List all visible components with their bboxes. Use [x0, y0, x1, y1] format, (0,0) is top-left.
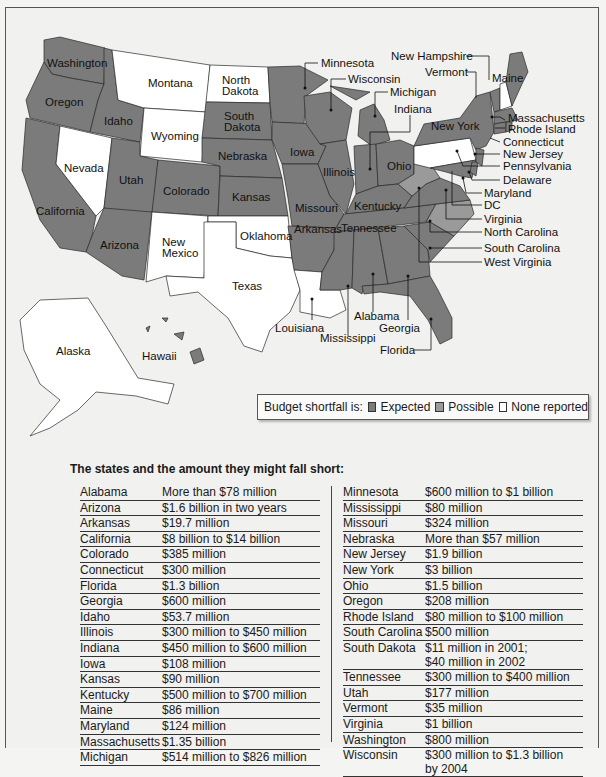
label-louisiana: Louisiana — [275, 322, 325, 334]
label-north-carolina: North Carolina — [484, 226, 559, 238]
amount-line: $600 million to $1 billion — [425, 486, 583, 500]
table-row: Mississippi$80 million — [343, 501, 583, 517]
shortfall-amount: $1.35 billion — [162, 736, 320, 750]
label-pennsylvania: Pennsylvania — [503, 160, 572, 172]
amount-line: $86 million — [162, 704, 320, 718]
label-texas: Texas — [232, 280, 262, 292]
table-title: The states and the amount they might fal… — [70, 462, 344, 476]
amount-line-2: by 2004 — [425, 763, 583, 777]
label-rhode-island: Rhode Island — [508, 123, 576, 135]
shortfall-amount: More than $78 million — [162, 486, 320, 500]
table-row: New Jersey$1.9 billion — [343, 547, 583, 563]
shortfall-amount: $86 million — [162, 704, 320, 718]
label-illinois: Illinois — [323, 166, 355, 178]
table-row: AlabamaMore than $78 million — [80, 485, 320, 501]
label-alabama: Alabama — [354, 310, 400, 322]
amount-line-2: $40 million in 2002 — [425, 656, 583, 670]
shortfall-amount: $600 million — [162, 595, 320, 609]
shortfall-amount: $1 billion — [425, 718, 583, 732]
table-row: Georgia$600 million — [80, 594, 320, 610]
label-new-hampshire: New Hampshire — [391, 50, 473, 62]
amount-line: $1 billion — [425, 718, 583, 732]
shortfall-table-right: Minnesota$600 million to $1 billionMissi… — [343, 485, 583, 777]
amount-line: $300 million to $450 million — [162, 626, 320, 640]
label-hawaii: Hawaii — [142, 350, 177, 362]
amount-line: $8 billion to $14 billion — [162, 533, 320, 547]
shortfall-amount: $300 million — [162, 564, 320, 578]
label-wisconsin: Wisconsin — [348, 73, 400, 85]
shortfall-table-left: AlabamaMore than $78 millionArizona$1.6 … — [80, 485, 320, 766]
label-missouri: Missouri — [295, 202, 338, 214]
amount-line: $800 million — [425, 734, 583, 748]
amount-line: $1.6 billion in two years — [162, 502, 320, 516]
table-row: Illinois$300 million to $450 million — [80, 625, 320, 641]
table-row: South Carolina$500 million — [343, 625, 583, 641]
label-washington: Washington — [47, 57, 107, 69]
table-row: Florida$1.3 billion — [80, 579, 320, 595]
table-row: Massachusetts$1.35 billion — [80, 735, 320, 751]
table-row: Kentucky$500 million to $700 million — [80, 688, 320, 704]
state-indiana — [354, 144, 378, 194]
state-name: Maine — [80, 704, 162, 718]
shortfall-amount: $177 million — [425, 687, 583, 701]
label-nevada: Nevada — [64, 162, 104, 174]
table-row: Oregon$208 million — [343, 594, 583, 610]
label-minnesota: Minnesota — [321, 57, 375, 69]
amount-line: $385 million — [162, 548, 320, 562]
label-oregon: Oregon — [45, 96, 83, 108]
amount-line: $514 million to $826 million — [162, 751, 320, 765]
shortfall-amount: More than $57 million — [425, 533, 583, 547]
state-name: Minnesota — [343, 486, 425, 500]
shortfall-amount: $514 million to $826 million — [162, 751, 320, 765]
shortfall-amount: $600 million to $1 billion — [425, 486, 583, 500]
state-name: Massachusetts — [80, 736, 162, 750]
state-name: Mississippi — [343, 502, 425, 516]
label-new-mexico-2: Mexico — [162, 247, 198, 259]
label-alaska: Alaska — [56, 345, 91, 357]
shortfall-amount: $300 million to $450 million — [162, 626, 320, 640]
shortfall-amount: $35 million — [425, 702, 583, 716]
shortfall-amount: $500 million — [425, 626, 583, 640]
state-name: South Carolina — [343, 626, 425, 640]
state-name: Vermont — [343, 702, 425, 716]
state-name: California — [80, 533, 162, 547]
label-tennessee: Tennessee — [341, 222, 397, 234]
state-name: Connecticut — [80, 564, 162, 578]
amount-line: $124 million — [162, 720, 320, 734]
table-row: Virginia$1 billion — [343, 717, 583, 733]
amount-line: $450 million to $600 million — [162, 642, 320, 656]
table-row: Ohio$1.5 billion — [343, 579, 583, 595]
legend-label-none: None reported — [511, 400, 588, 414]
table-row: Idaho$53.7 million — [80, 610, 320, 626]
shortfall-amount: $1.6 billion in two years — [162, 502, 320, 516]
state-name: Missouri — [343, 517, 425, 531]
state-name: New York — [343, 564, 425, 578]
label-oklahoma: Oklahoma — [240, 230, 293, 242]
table-row: Maine$86 million — [80, 703, 320, 719]
map-legend: Budget shortfall is: Expected Possible N… — [257, 394, 589, 420]
shortfall-amount: $80 million to $100 million — [425, 611, 583, 625]
shortfall-amount: $80 million — [425, 502, 583, 516]
shortfall-amount: $300 million to $400 million — [425, 671, 583, 685]
label-nebraska: Nebraska — [218, 150, 268, 162]
amount-line: $1.9 billion — [425, 548, 583, 562]
state-name: Virginia — [343, 718, 425, 732]
state-name: Nebraska — [343, 533, 425, 547]
state-name: Oregon — [343, 595, 425, 609]
table-row: Maryland$124 million — [80, 719, 320, 735]
state-name: Tennessee — [343, 671, 425, 685]
shortfall-amount: $324 million — [425, 517, 583, 531]
table-row: Wisconsin$300 million to $1.3 billionby … — [343, 748, 583, 777]
table-row: Tennessee$300 million to $400 million — [343, 670, 583, 686]
label-utah: Utah — [119, 174, 143, 186]
state-name: Idaho — [80, 611, 162, 625]
state-name: Iowa — [80, 658, 162, 672]
table-row: Missouri$324 million — [343, 516, 583, 532]
label-vermont: Vermont — [425, 66, 469, 78]
amount-line: $500 million — [425, 626, 583, 640]
label-new-york: New York — [431, 120, 480, 132]
state-name: Maryland — [80, 720, 162, 734]
amount-line: $19.7 million — [162, 517, 320, 531]
state-name: Colorado — [80, 548, 162, 562]
label-colorado: Colorado — [163, 185, 210, 197]
